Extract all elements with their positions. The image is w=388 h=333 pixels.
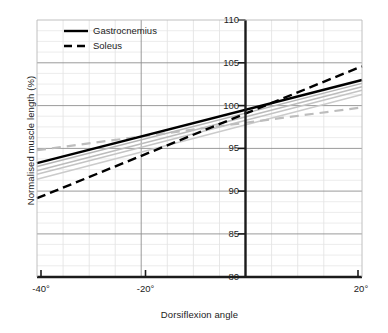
legend-label-soleus: Soleus: [93, 38, 122, 53]
x-tick-plus-20: 20°: [341, 283, 381, 294]
legend-label-gastrocnemius: Gastrocnemius: [93, 23, 157, 38]
y-tick-85: 85: [213, 229, 239, 239]
legend-item-soleus: Soleus: [63, 38, 157, 53]
y-tick-110: 110: [213, 15, 239, 25]
y-tick-100: 100: [213, 101, 239, 111]
y-axis-tick-labels: 110 105 100 95 90 85 80: [213, 0, 239, 333]
legend-item-gastrocnemius: Gastrocnemius: [63, 23, 157, 38]
y-tick-105: 105: [213, 58, 239, 68]
x-tick-minus-20: -20°: [126, 283, 166, 294]
x-axis-title: Dorsiflexion angle: [37, 309, 362, 320]
x-tick-minus-40: -40°: [21, 283, 61, 294]
y-tick-95: 95: [213, 143, 239, 153]
chart-figure: Gastrocnemius Soleus 110 105 100 95 90 8…: [0, 0, 388, 333]
legend-swatch-dashed-icon: [63, 41, 89, 51]
y-tick-80: 80: [213, 272, 239, 282]
y-axis-title: Normalised muscle length (%): [25, 31, 36, 251]
y-tick-90: 90: [213, 186, 239, 196]
chart-legend: Gastrocnemius Soleus: [63, 23, 157, 53]
legend-swatch-solid-icon: [63, 26, 89, 36]
